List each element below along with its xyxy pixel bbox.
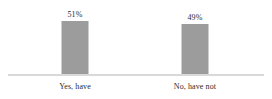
- bar-no-have-not: [182, 24, 209, 75]
- category-label-yes-have: Yes, have: [7, 81, 143, 92]
- x-axis-line: [8, 74, 264, 76]
- category-axis-labels: Yes, have No, have not: [0, 78, 272, 99]
- bar-column: 49%: [182, 0, 209, 75]
- bar-chart: 51% 49% Yes, have No, have not: [0, 0, 272, 99]
- bar-group-no-have-not: 49%: [127, 0, 263, 75]
- category-label-no-have-not: No, have not: [127, 81, 263, 92]
- bar-value-label: 49%: [188, 13, 203, 23]
- bar-value-label: 51%: [68, 10, 83, 20]
- bar-group-yes-have: 51%: [7, 0, 143, 75]
- bar-column: 51%: [62, 0, 89, 75]
- bar-yes-have: [62, 21, 89, 75]
- plot-area: 51% 49%: [0, 0, 272, 75]
